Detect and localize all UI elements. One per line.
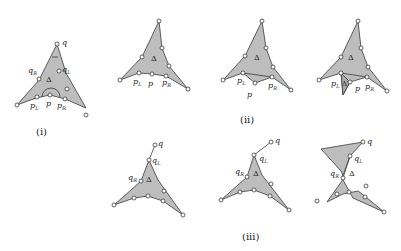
panel-iii-c: q qL qR Δ — [315, 137, 386, 214]
label-q: q — [367, 137, 372, 146]
panel-iii-b: q qL qR Δ (iii) — [219, 136, 291, 242]
caption-iii: (iii) — [242, 231, 259, 242]
label-p: p — [355, 84, 360, 93]
label-qL: qL — [354, 154, 363, 164]
label-pL: pL — [237, 76, 246, 86]
label-q: q — [158, 139, 163, 148]
label-p: p — [148, 79, 153, 88]
label-qR: qR — [28, 66, 37, 76]
label-pL: pL — [30, 101, 39, 111]
panel-iii-a: q qL qR Δ — [112, 139, 185, 217]
panel-ii-c: Δ Δ′ pL p pR — [317, 19, 389, 95]
label-pR: pR — [365, 82, 374, 92]
label-qR: qR — [128, 173, 137, 183]
label-delta: Δ — [254, 53, 260, 62]
label-delta: Δ — [348, 53, 354, 62]
label-delta-prime: Δ′ — [342, 80, 349, 88]
panel-ii-a: Δ pL p pR — [118, 19, 190, 91]
label-qL: qL — [152, 156, 161, 166]
label-pL: pL — [331, 79, 340, 89]
label-q: q — [275, 136, 280, 145]
label-p: p — [247, 90, 252, 99]
label-delta: Δ — [151, 54, 157, 63]
label-qL: qL — [259, 154, 268, 164]
label-qL: qL — [62, 65, 71, 75]
panel-ii-b: Δ pL p pR (ii) — [221, 19, 293, 125]
diagram-canvas: q qL qR Δ pL p pR (i) Δ pL p pR — [0, 0, 401, 251]
caption-ii: (ii) — [240, 114, 254, 125]
label-delta: Δ — [349, 169, 355, 178]
label-delta: Δ — [253, 169, 259, 178]
label-delta: Δ — [146, 175, 152, 184]
label-p: p — [46, 99, 51, 108]
label-delta: Δ — [46, 75, 52, 84]
panel-i: q qL qR Δ pL p pR (i) — [15, 38, 88, 137]
label-qR: qR — [235, 167, 244, 177]
label-pR: pR — [268, 81, 277, 91]
label-pR: pR — [57, 101, 66, 111]
label-q: q — [62, 38, 67, 47]
label-pL: pL — [133, 77, 142, 87]
label-qR: qR — [330, 169, 339, 179]
label-pR: pR — [162, 78, 171, 88]
caption-i: (i) — [36, 126, 47, 137]
